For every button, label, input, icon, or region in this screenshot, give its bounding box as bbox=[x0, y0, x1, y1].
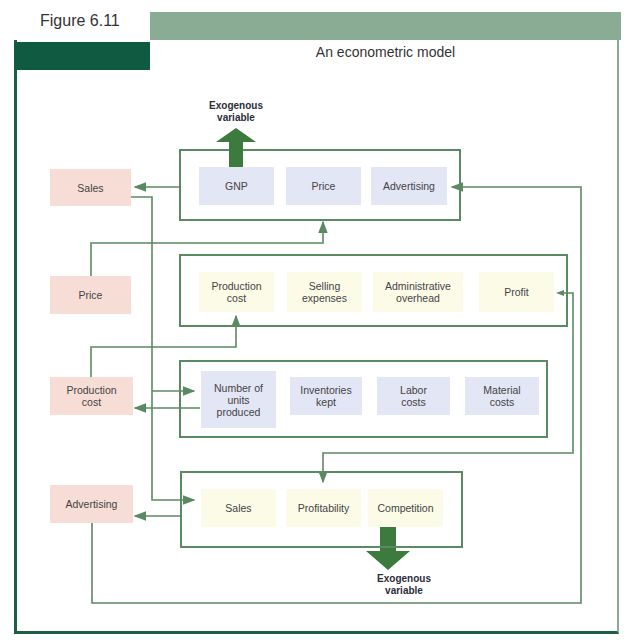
group4-profitability: Profitability bbox=[286, 489, 361, 527]
exogenous-label-top: Exogenous variable bbox=[196, 100, 276, 124]
node-label: Profit bbox=[504, 286, 529, 298]
group3-units-produced: Number of units produced bbox=[201, 371, 276, 428]
group3-material-costs: Material costs bbox=[465, 377, 539, 415]
exogenous-line1: Exogenous bbox=[196, 100, 276, 112]
exogenous-label-bottom: Exogenous variable bbox=[364, 573, 444, 597]
node-label: Inventories kept bbox=[296, 384, 356, 408]
exogenous-line1: Exogenous bbox=[364, 573, 444, 585]
group2-production-cost: Production cost bbox=[199, 272, 274, 312]
node-label: Production cost bbox=[209, 280, 264, 304]
group2-selling-expenses: Selling expenses bbox=[287, 272, 362, 312]
exogenous-line2: variable bbox=[196, 112, 276, 124]
node-label: Competition bbox=[377, 502, 433, 514]
node-label: Selling expenses bbox=[297, 280, 352, 304]
group3-labor-costs: Labor costs bbox=[377, 377, 450, 415]
group4-sales: Sales bbox=[201, 489, 276, 527]
group2-administrative-overhead: Administrative overhead bbox=[373, 272, 463, 312]
exogenous-line2: variable bbox=[364, 585, 444, 597]
group2-profit: Profit bbox=[479, 272, 554, 312]
node-label: Sales bbox=[225, 502, 251, 514]
node-label: Administrative overhead bbox=[378, 280, 458, 304]
node-label: Profitability bbox=[298, 502, 349, 514]
node-label: Labor costs bbox=[394, 384, 434, 408]
node-label: Number of units produced bbox=[214, 382, 264, 418]
group3-inventories-kept: Inventories kept bbox=[290, 377, 362, 415]
group4-competition: Competition bbox=[368, 489, 443, 527]
node-label: Material costs bbox=[477, 384, 527, 408]
